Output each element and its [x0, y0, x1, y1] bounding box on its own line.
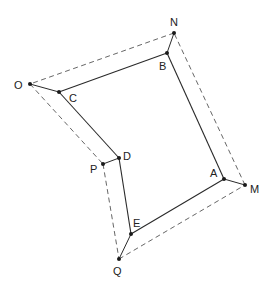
vertex-labels: N B O C D P E Q A M: [14, 16, 259, 277]
connector-Q-E: [119, 234, 131, 259]
label-M: M: [250, 183, 259, 195]
edge-O-P: [30, 84, 103, 164]
connector-N-B: [167, 33, 174, 53]
point-O: [28, 82, 32, 86]
edge-M-N: [174, 33, 245, 185]
geometry-diagram: N B O C D P E Q A M: [0, 0, 277, 289]
label-E: E: [133, 217, 140, 229]
point-C: [57, 90, 61, 94]
edge-P-Q: [103, 164, 119, 259]
label-D: D: [123, 150, 131, 162]
edge-B-C: [59, 53, 167, 92]
label-A: A: [210, 167, 218, 179]
label-Q: Q: [113, 265, 122, 277]
point-B: [165, 51, 169, 55]
connector-O-C: [30, 84, 59, 92]
edge-E-A: [131, 179, 224, 234]
label-O: O: [14, 79, 23, 91]
label-N: N: [170, 16, 178, 28]
point-P: [101, 162, 105, 166]
point-E: [129, 232, 133, 236]
label-C: C: [69, 92, 77, 104]
point-N: [172, 31, 176, 35]
label-P: P: [90, 163, 97, 175]
label-B: B: [159, 60, 166, 72]
point-Q: [117, 257, 121, 261]
point-A: [222, 177, 226, 181]
connector-P-D: [103, 158, 119, 164]
point-M: [243, 183, 247, 187]
connector-M-A: [224, 179, 245, 185]
edge-D-E: [119, 158, 131, 234]
point-D: [117, 156, 121, 160]
edge-A-B: [167, 53, 224, 179]
